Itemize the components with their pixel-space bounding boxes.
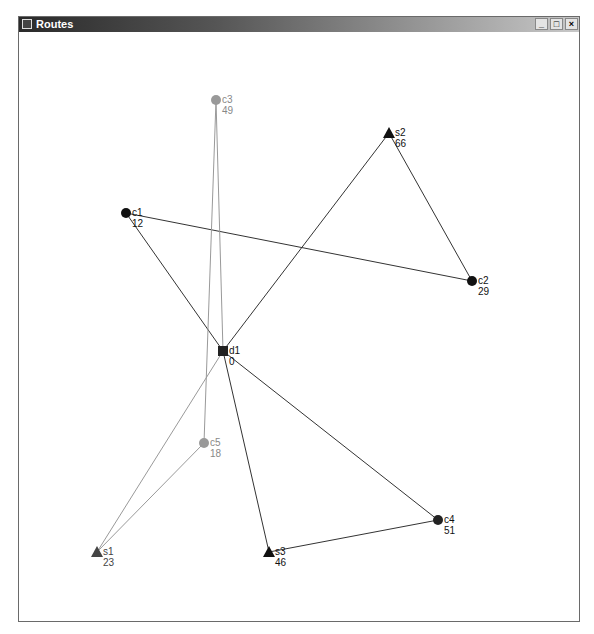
circle-node-icon [467,276,477,286]
node-label: s1 [103,546,114,557]
circle-node-icon [433,515,443,525]
node-value: 0 [229,356,235,367]
edge-c3-c5 [204,100,216,443]
edge-c1-c2 [126,213,472,281]
triangle-node-icon [383,127,395,138]
routes-window: Routes _ □ × c349s266c112c229d10c518c451… [18,16,580,622]
node-value: 51 [444,525,456,536]
node-value: 49 [222,105,234,116]
app-icon[interactable] [22,19,32,29]
edge-s2-d1 [223,133,389,351]
node-value: 12 [132,218,144,229]
node-c4[interactable]: c451 [433,514,456,536]
node-label: c4 [444,514,455,525]
edge-s1-d1 [97,351,223,552]
circle-node-icon [121,208,131,218]
node-label: c2 [478,275,489,286]
circle-node-icon [211,95,221,105]
circle-node-icon [199,438,209,448]
graph-canvas[interactable]: c349s266c112c229d10c518c451s123s346 [19,32,579,621]
route-graph: c349s266c112c229d10c518c451s123s346 [19,32,581,623]
node-value: 18 [210,448,222,459]
square-node-icon [218,346,228,356]
node-d1[interactable]: d10 [218,345,241,367]
node-value: 46 [275,557,287,568]
node-label: c3 [222,94,233,105]
node-c1[interactable]: c112 [121,207,144,229]
node-value: 23 [103,557,115,568]
node-label: s3 [275,546,286,557]
title-bar[interactable]: Routes _ □ × [19,17,579,32]
node-c2[interactable]: c229 [467,275,490,297]
node-c5[interactable]: c518 [199,437,222,459]
maximize-button[interactable]: □ [550,18,563,30]
node-c3[interactable]: c349 [211,94,234,116]
node-value: 29 [478,286,490,297]
node-s2[interactable]: s266 [383,127,407,149]
node-label: c1 [132,207,143,218]
node-label: s2 [395,127,406,138]
edge-c4-d1 [223,351,438,520]
node-s3[interactable]: s346 [263,546,287,568]
node-label: c5 [210,437,221,448]
minimize-button[interactable]: _ [535,18,548,30]
close-button[interactable]: × [565,18,578,30]
node-s1[interactable]: s123 [91,546,115,568]
edge-c5-s1 [97,443,204,552]
edge-c2-s2 [389,133,472,281]
edge-s3-c4 [269,520,438,552]
edge-d1-c1 [126,213,223,351]
edge-d1-c3 [216,100,223,351]
window-title: Routes [36,18,73,31]
node-value: 66 [395,138,407,149]
node-label: d1 [229,345,241,356]
